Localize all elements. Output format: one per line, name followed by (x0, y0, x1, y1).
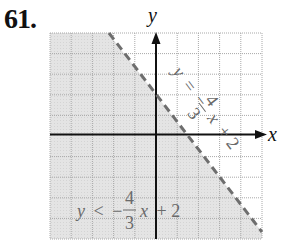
eq-var: x (203, 108, 224, 127)
eq-equals: = (179, 76, 201, 96)
eq-rest: + 2 (214, 122, 244, 153)
ineq-rest: + 2 (157, 201, 181, 221)
svg-text:x + 2: x + 2 (139, 201, 180, 221)
eq-lhs: y (168, 61, 190, 81)
ineq-op: < (94, 201, 104, 221)
svg-text:x + 2: x + 2 (203, 108, 244, 153)
ineq-denominator: 3 (125, 213, 134, 233)
y-axis-label: y (146, 4, 157, 27)
ineq-lhs: y (75, 201, 85, 221)
ineq-sign: − (112, 201, 122, 221)
ineq-numerator: 4 (125, 188, 134, 208)
x-axis-label: x (267, 123, 277, 145)
x-axis-arrow-icon (255, 130, 267, 139)
svg-text:y < −: y < − (75, 201, 122, 221)
inequality-graph: x y y = − 4 3 x + 2 y < − 4 3 x + 2 (0, 0, 288, 247)
y-axis-arrow-icon (152, 32, 161, 44)
eq-denominator: 3 (184, 104, 205, 123)
ineq-var: x (139, 201, 148, 221)
